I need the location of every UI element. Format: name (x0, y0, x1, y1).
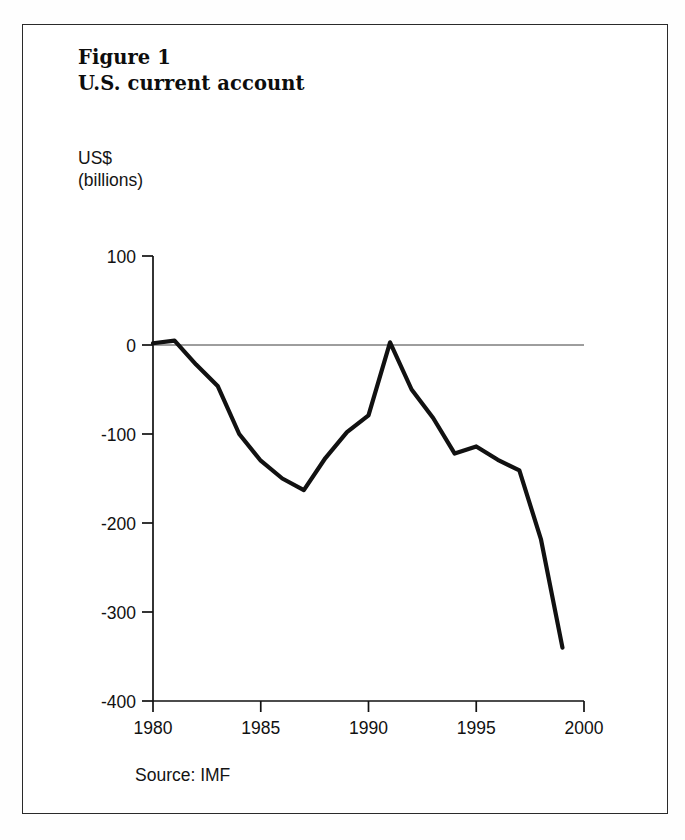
line-chart-svg: 1000-100-200-300-40019801985199019952000 (23, 25, 669, 815)
svg-text:1995: 1995 (457, 718, 496, 738)
svg-text:-300: -300 (101, 603, 136, 623)
source-note: Source: IMF (135, 765, 230, 786)
svg-text:1980: 1980 (134, 718, 173, 738)
svg-text:2000: 2000 (565, 718, 604, 738)
svg-text:1990: 1990 (349, 718, 388, 738)
chart-plot-area: 1000-100-200-300-40019801985199019952000 (23, 25, 669, 815)
svg-text:-400: -400 (101, 692, 136, 712)
svg-text:100: 100 (107, 247, 136, 267)
svg-text:1985: 1985 (241, 718, 280, 738)
data-series-line (153, 341, 562, 648)
figure-frame-border: Figure 1 U.S. current account US$ (billi… (22, 24, 668, 814)
chart-axes (142, 256, 584, 712)
figure-root: Figure 1 U.S. current account US$ (billi… (0, 0, 685, 840)
svg-text:-200: -200 (101, 514, 136, 534)
svg-text:0: 0 (126, 336, 136, 356)
svg-text:-100: -100 (101, 425, 136, 445)
